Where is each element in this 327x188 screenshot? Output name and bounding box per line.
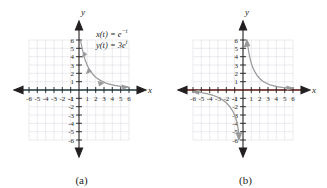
x-axis-label-b: x xyxy=(312,85,316,95)
figure-two-graphs: -6 -5 -4 -3 -2 -1 1 2 3 4 5 6 6 5 4 3 2 … xyxy=(0,0,327,188)
ytick--4: -4 xyxy=(68,120,74,128)
ytick--3: -3 xyxy=(68,112,74,120)
ytick--5: -5 xyxy=(68,128,74,136)
ytick--2: -2 xyxy=(232,103,238,111)
ytick-5: 5 xyxy=(71,45,75,53)
ytick-2: 2 xyxy=(71,70,75,78)
panel-b-caption: (b) xyxy=(164,174,327,186)
y-axis-label-a: y xyxy=(81,7,85,17)
equation-annotation-a: x(t) = e−t y(t) = 3et xyxy=(96,28,128,51)
xtick-5: 5 xyxy=(119,95,123,103)
xtick-4: 4 xyxy=(111,95,115,103)
xtick--3: -3 xyxy=(51,95,57,103)
xtick-6: 6 xyxy=(291,95,295,103)
ytick-3: 3 xyxy=(71,62,75,70)
graph-a-svg: -6 -5 -4 -3 -2 -1 1 2 3 4 5 6 6 5 4 3 2 … xyxy=(0,0,163,188)
xtick--6: -6 xyxy=(26,95,32,103)
equation-y-rel: = xyxy=(110,40,116,50)
equation-x-of-t: x(t) = e−t xyxy=(96,28,128,39)
curve-arrow-a-end xyxy=(122,84,130,89)
xtick-3: 3 xyxy=(266,95,270,103)
ytick-4: 4 xyxy=(71,53,75,61)
ytick--1: -1 xyxy=(232,95,238,103)
xtick-2: 2 xyxy=(94,95,98,103)
ytick-4: 4 xyxy=(235,53,239,61)
xtick-3: 3 xyxy=(102,95,106,103)
y-axis-label-b: y xyxy=(245,7,249,17)
ytick-2: 2 xyxy=(235,70,239,78)
xtick--5: -5 xyxy=(198,95,204,103)
xtick-5: 5 xyxy=(283,95,287,103)
ytick-6: 6 xyxy=(235,37,239,45)
ytick-3: 3 xyxy=(235,62,239,70)
equation-y-lhs: y(t) xyxy=(96,40,108,50)
xtick-4: 4 xyxy=(275,95,279,103)
x-axis-label-a: x xyxy=(148,85,152,95)
xtick-1: 1 xyxy=(250,95,254,103)
ytick--6: -6 xyxy=(68,137,74,145)
equation-y-exponent: t xyxy=(126,39,128,45)
graph-panel-b: -6 -5 -4 -3 -2 -1 1 2 3 4 5 6 6 5 4 3 2 … xyxy=(164,0,327,188)
ytick-5: 5 xyxy=(235,45,239,53)
xtick--4: -4 xyxy=(207,95,213,103)
xtick--4: -4 xyxy=(43,95,49,103)
xtick--6: -6 xyxy=(190,95,196,103)
xtick--2: -2 xyxy=(59,95,65,103)
ytick-6: 6 xyxy=(71,37,75,45)
equation-y-of-t: y(t) = 3et xyxy=(96,39,128,50)
equation-x-exponent: −t xyxy=(122,28,128,34)
ytick--2: -2 xyxy=(68,103,74,111)
xtick-6: 6 xyxy=(127,95,131,103)
panel-a-caption: (a) xyxy=(0,174,163,186)
equation-x-rel: = xyxy=(110,29,116,39)
xtick-1: 1 xyxy=(86,95,90,103)
ytick--1: -1 xyxy=(68,95,74,103)
xtick--5: -5 xyxy=(34,95,40,103)
xtick-2: 2 xyxy=(258,95,262,103)
graph-panel-a: -6 -5 -4 -3 -2 -1 1 2 3 4 5 6 6 5 4 3 2 … xyxy=(0,0,163,188)
equation-x-lhs: x(t) xyxy=(96,29,108,39)
ytick-1: 1 xyxy=(71,78,75,86)
ytick-1: 1 xyxy=(235,78,239,86)
graph-b-svg: -6 -5 -4 -3 -2 -1 1 2 3 4 5 6 6 5 4 3 2 … xyxy=(164,0,327,188)
